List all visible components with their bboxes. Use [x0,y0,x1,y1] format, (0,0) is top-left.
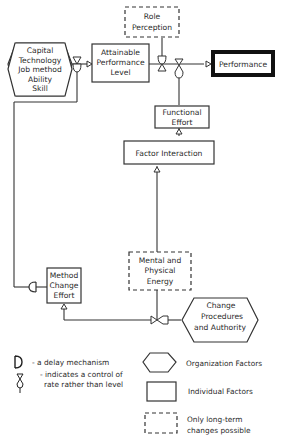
org-factors-line-1: Capital [27,46,54,55]
arrow-head-icon [206,61,211,67]
node-attainable-performance: Attainable Performance Level [92,44,149,82]
org-factors-line-2: Technology [18,56,62,65]
legend-dashed-rectangle-icon [145,413,177,433]
rate-control-icon [17,374,23,393]
arrow-head-icon [176,129,182,134]
node-org-factors: Capital Technology Job method Ability Sk… [8,43,72,96]
arrow-head-icon [61,304,67,309]
change-line-3: and Authority [194,323,246,332]
node-functional-effort: Functional Effort [155,106,209,128]
rate-control-icon [151,316,168,324]
delay-icon [29,282,36,292]
node-performance: Performance [213,52,273,75]
functional-line-1: Functional [162,108,201,117]
legend-hexagon-icon [143,353,176,372]
legend: - a delay mechanism - indicates a contro… [15,353,262,435]
rate-control-icon [175,59,183,78]
arrow-head-icon [87,61,92,67]
org-factors-line-5: Skill [32,84,48,93]
legend-rectangle-icon [147,382,176,401]
arrow-head-icon [154,167,160,172]
change-line-1: Change [206,301,235,310]
attainable-line-1: Attainable [101,48,140,57]
legend-org-text: Organization Factors [186,359,262,368]
org-factors-line-3: Job method [17,65,62,74]
attainable-line-2: Performance [96,58,144,67]
performance-label: Performance [219,60,267,69]
node-change-procedures: Change Procedures and Authority [182,298,258,342]
factor-label: Factor Interaction [136,149,203,158]
method-line-2: Change [49,281,78,290]
node-method-change-effort: Method Change Effort [47,268,81,303]
legend-lt-text-2: changes possible [187,426,251,435]
mental-line-1: Mental and [139,256,182,265]
mental-line-3: Energy [147,277,174,286]
change-line-2: Procedures [201,312,243,321]
attainable-line-3: Level [110,68,130,77]
rate-control-icon [73,57,81,72]
node-factor-interaction: Factor Interaction [124,141,214,164]
legend-delay-text: - a delay mechanism [32,358,109,367]
org-factors-line-4: Ability [28,75,52,84]
node-mental-physical-energy: Mental and Physical Energy [129,252,191,290]
role-line-1: Role [144,12,161,21]
method-line-1: Method [50,271,79,280]
legend-lt-text-1: Only long-term [187,415,242,424]
method-line-3: Effort [54,291,75,300]
performance-model-diagram: Capital Technology Job method Ability Sk… [0,0,281,448]
legend-control-text-1: - indicates a control of [40,370,123,379]
legend-control-text-2: rate rather than level [44,380,123,389]
legend-ind-text: Individual Factors [188,387,253,396]
node-role-perception: Role Perception [125,7,179,37]
delay-icon [15,356,22,368]
mental-line-2: Physical [145,266,176,275]
functional-line-2: Effort [172,118,193,127]
role-line-2: Perception [132,23,172,32]
